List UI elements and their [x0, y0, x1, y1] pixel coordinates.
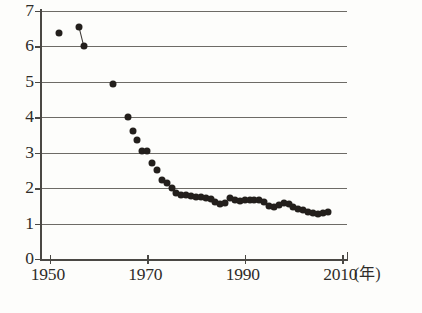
data-point: [134, 137, 141, 144]
x-axis-label: 2010: [323, 266, 357, 284]
gridline: [40, 224, 347, 225]
y-axis-label: 4: [0, 108, 34, 126]
y-axis-label: 1: [0, 215, 34, 233]
y-axis-tick: [35, 224, 41, 225]
gridline: [40, 11, 347, 12]
y-axis-label: 3: [0, 144, 34, 162]
data-point: [324, 209, 331, 216]
data-point: [129, 128, 136, 135]
y-axis-tick: [35, 259, 41, 260]
y-axis-label: 7: [0, 2, 34, 20]
data-point: [80, 43, 87, 50]
gridline: [40, 153, 347, 154]
y-axis-label: 6: [0, 37, 34, 55]
y-axis-label: 5: [0, 73, 34, 91]
x-axis-tick: [50, 255, 51, 264]
y-axis-tick: [35, 117, 41, 118]
x-axis-label: 1970: [128, 266, 162, 284]
y-axis-label: 2: [0, 179, 34, 197]
x-axis-tick: [245, 255, 246, 264]
x-axis-tick: [147, 255, 148, 264]
x-axis-label: 1950: [31, 266, 65, 284]
data-point: [110, 80, 117, 87]
y-axis-tick: [35, 188, 41, 189]
x-axis-unit-label: (年): [354, 266, 381, 282]
x-axis-end-cap: [347, 252, 348, 260]
y-axis-label: 0: [0, 250, 34, 268]
x-axis-label: 1990: [226, 266, 260, 284]
x-axis-line: [40, 259, 348, 261]
y-axis-tick: [35, 46, 41, 47]
x-axis-tick: [342, 255, 343, 264]
data-point: [56, 29, 63, 36]
data-point: [75, 23, 82, 30]
gridline: [40, 82, 347, 83]
fertility-rate-chart: 76543210 1950197019902010 (年): [0, 0, 422, 313]
gridline: [40, 117, 347, 118]
data-point: [144, 147, 151, 154]
data-point: [149, 159, 156, 166]
y-axis-tick: [35, 82, 41, 83]
data-point: [124, 114, 131, 121]
y-axis-tick: [35, 153, 41, 154]
gridline: [40, 188, 347, 189]
plot-area: [40, 11, 347, 259]
data-point: [153, 167, 160, 174]
y-axis-tick: [35, 11, 41, 12]
